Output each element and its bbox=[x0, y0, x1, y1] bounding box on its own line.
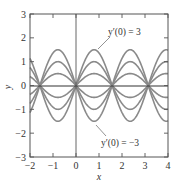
x-tick-label: −1 bbox=[48, 160, 59, 171]
x-tick-label: −2 bbox=[25, 160, 36, 171]
annotation-leader-bottom bbox=[96, 125, 106, 136]
x-tick-label: 3 bbox=[143, 160, 148, 171]
x-tick-label: 4 bbox=[166, 160, 171, 171]
y-tick-label: −1 bbox=[15, 104, 26, 115]
y-tick-label: 3 bbox=[21, 9, 26, 20]
x-tick-label: 0 bbox=[74, 160, 79, 171]
annotation-top: y′(0) = 3 bbox=[108, 27, 141, 38]
y-tick-label: −3 bbox=[15, 152, 26, 163]
x-axis-label: x bbox=[96, 171, 102, 182]
x-tick-label: 2 bbox=[120, 160, 125, 171]
y-tick-label: −2 bbox=[15, 128, 26, 139]
x-tick-label: 1 bbox=[97, 160, 102, 171]
annotation-leader-top bbox=[98, 37, 110, 49]
y-tick-label: 0 bbox=[21, 80, 26, 91]
chart: −2−101234−3−2−10123 x y y′(0) = 3 y′(0) … bbox=[0, 0, 183, 188]
y-tick-label: 2 bbox=[21, 32, 26, 43]
annotation-bottom: y′(0) = −3 bbox=[101, 138, 139, 149]
y-axis-label: y bbox=[2, 84, 13, 90]
y-tick-label: 1 bbox=[21, 56, 26, 67]
